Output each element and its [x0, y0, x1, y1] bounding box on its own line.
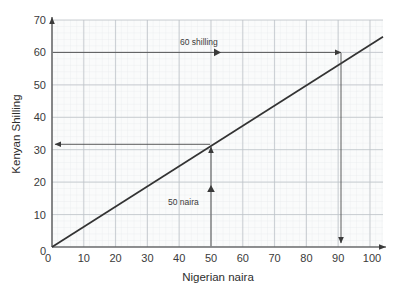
x-tick-label: 90: [332, 252, 344, 264]
y-tick-label: 30: [34, 144, 46, 156]
x-tick-label: 20: [109, 252, 121, 264]
annotation-60-shilling-label: 60 shilling: [180, 37, 218, 47]
y-tick-label: 70: [34, 14, 46, 26]
conversion-graph: 60 shilling 50 naira 0 10 20 30 40 50 60…: [0, 0, 397, 288]
x-tick-labels: 0 10 20 30 40 50 60 70 80 90 100: [45, 252, 381, 264]
x-tick-label: 100: [363, 252, 381, 264]
x-tick-label: 50: [205, 252, 217, 264]
y-tick-label: 20: [34, 176, 46, 188]
y-tick-label: 60: [34, 46, 46, 58]
x-tick-label: 30: [141, 252, 153, 264]
x-tick-label: 40: [173, 252, 185, 264]
y-tick-label: 40: [34, 111, 46, 123]
x-tick-label: 60: [237, 252, 249, 264]
y-tick-label: 10: [34, 209, 46, 221]
chart-svg: 60 shilling 50 naira 0 10 20 30 40 50 60…: [0, 0, 397, 288]
y-axis-title: Kenyan Shilling: [10, 94, 22, 173]
x-tick-label: 10: [78, 252, 90, 264]
y-tick-label: 50: [34, 79, 46, 91]
y-tick-labels: 0 10 20 30 40 50 60 70: [34, 14, 46, 257]
x-axis-title: Nigerian naira: [182, 271, 254, 283]
annotation-50-naira-label: 50 naira: [168, 197, 199, 207]
y-tick-label: 0: [40, 245, 46, 257]
x-tick-label: 80: [300, 252, 312, 264]
x-tick-label: 70: [268, 252, 280, 264]
